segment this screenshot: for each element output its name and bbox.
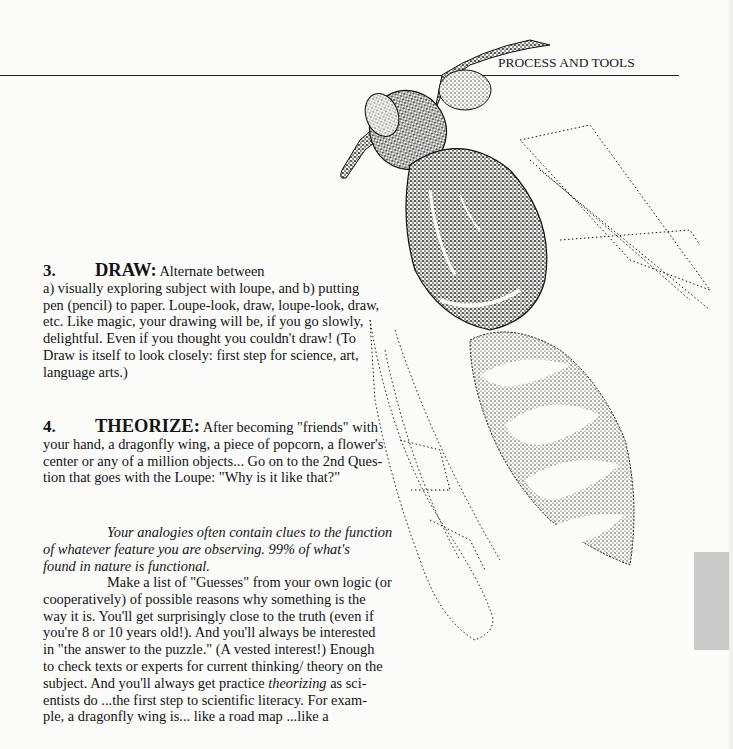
section-keyword: THEORIZE:: [95, 416, 200, 436]
body-line: ple, a dragonfly wing is... like a road …: [43, 708, 373, 725]
section-number: 4.: [43, 419, 95, 436]
body-line: delightful. Even if you thought you coul…: [43, 330, 373, 347]
body-line: way it is. You'll get surprisingly close…: [43, 608, 373, 625]
body-line: pen (pencil) to paper. Loupe-look, draw,…: [43, 297, 373, 314]
document-page: PROCESS AND TOOLS: [0, 0, 733, 749]
section-keyword: DRAW:: [95, 260, 157, 280]
line-text: as sci-: [327, 675, 367, 691]
body-line: in "the answer to the puzzle." (A vested…: [43, 641, 373, 658]
body-line: subject. And you'll always get practice …: [43, 675, 373, 692]
section-lead: Alternate between: [157, 263, 265, 279]
body-line: tion that goes with the Loupe: "Why is i…: [43, 469, 373, 486]
body-line: Draw is itself to look closely: first st…: [43, 347, 373, 364]
section-draw: 3.DRAW: Alternate between a) visually ex…: [43, 262, 373, 381]
body-line: etc. Like magic, your drawing will be, i…: [43, 313, 373, 330]
body-line: language arts.): [43, 364, 373, 381]
section-theorize-heading: 4.THEORIZE: After becoming "friends" wit…: [43, 418, 373, 436]
body-line: of whatever feature you are observing. 9…: [43, 541, 373, 558]
page-edge: [729, 0, 733, 749]
body-line: Make a list of "Guesses" from your own l…: [43, 574, 373, 591]
body-line: cooperatively) of possible reasons why s…: [43, 591, 373, 608]
line-text: subject. And you'll always get practice: [43, 675, 268, 691]
section-draw-heading: 3.DRAW: Alternate between: [43, 262, 373, 280]
body-line: you're 8 or 10 years old!). And you'll a…: [43, 624, 373, 641]
body-line: center or any of a million objects... Go…: [43, 453, 373, 470]
section-lead: After becoming "friends" with: [200, 419, 378, 435]
body-line: your hand, a dragonfly wing, a piece of …: [43, 436, 373, 453]
body-line: a) visually exploring subject with loupe…: [43, 280, 373, 297]
wasp-illustration: [330, 20, 733, 720]
section-theorize: 4.THEORIZE: After becoming "friends" wit…: [43, 418, 373, 486]
body-line: to check texts or experts for current th…: [43, 658, 373, 675]
body-line: Your analogies often contain clues to th…: [43, 524, 373, 541]
wing-right-upper: [520, 125, 710, 290]
wasp-thorax: [406, 149, 547, 330]
body-line: found in nature is functional.: [43, 558, 373, 575]
section-number: 3.: [43, 263, 95, 280]
emphasis-theorizing: theorizing: [268, 675, 326, 691]
guesses-paragraph: Make a list of "Guesses" from your own l…: [43, 574, 373, 725]
analogies-paragraph: Your analogies often contain clues to th…: [43, 524, 373, 574]
page-side-tab: [694, 552, 733, 650]
body-line: entists do ...the first step to scientif…: [43, 692, 373, 709]
